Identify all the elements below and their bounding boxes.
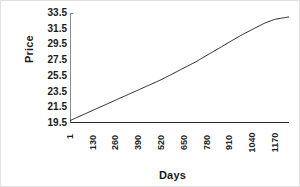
x-tick-label: 1 [65, 129, 76, 145]
price-line-path [70, 17, 289, 121]
plot-area [70, 13, 289, 123]
x-tick-label: 780 [201, 126, 212, 160]
axes-group [70, 13, 289, 123]
x-tick-label: 130 [87, 126, 98, 160]
x-tick-label: 520 [156, 126, 167, 160]
x-axis-title: Days [70, 169, 275, 181]
x-tick-label: 650 [178, 126, 189, 160]
y-tick-label: 33.5 [31, 8, 67, 18]
y-axis-tick-labels: 33.531.529.527.525.523.521.519.5 [31, 6, 67, 131]
y-tick-label: 31.5 [31, 24, 67, 34]
y-tick-label: 29.5 [31, 39, 67, 49]
y-tick-label: 25.5 [31, 71, 67, 81]
chart-figure: Price 33.531.529.527.525.523.521.519.5 1… [0, 0, 300, 187]
y-tick-label: 21.5 [31, 102, 67, 112]
x-axis-tick-labels: 113026039052065078091010401170 [70, 125, 295, 163]
x-tick-label: 1170 [269, 126, 280, 160]
x-tick-label: 910 [224, 126, 235, 160]
series-line-price [70, 13, 289, 123]
x-tick-label: 260 [110, 126, 121, 160]
x-tick-label: 390 [133, 126, 144, 160]
y-tick-label: 23.5 [31, 87, 67, 97]
x-tick-label: 1040 [247, 126, 258, 160]
y-tick-label: 19.5 [31, 118, 67, 128]
y-tick-label: 27.5 [31, 55, 67, 65]
